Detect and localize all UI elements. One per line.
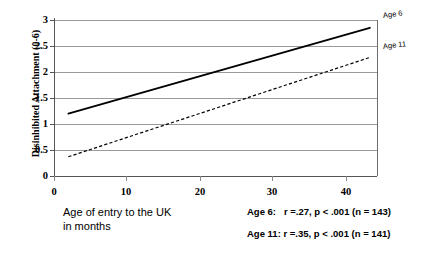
- x-axis-label: Age of entry to the UK in months: [63, 205, 171, 233]
- series-line-age-6: [68, 28, 369, 114]
- annotation-age-6: Age 6: r =.27, p < .001 (n = 143): [247, 206, 391, 217]
- chart-figure: Disinhibited Attachment (0-6) 3 2.5 2 1.…: [0, 0, 431, 256]
- annotation-age-11: Age 11: r =.35, p < .001 (n = 141): [247, 228, 390, 239]
- y-axis-ticks: [50, 21, 54, 177]
